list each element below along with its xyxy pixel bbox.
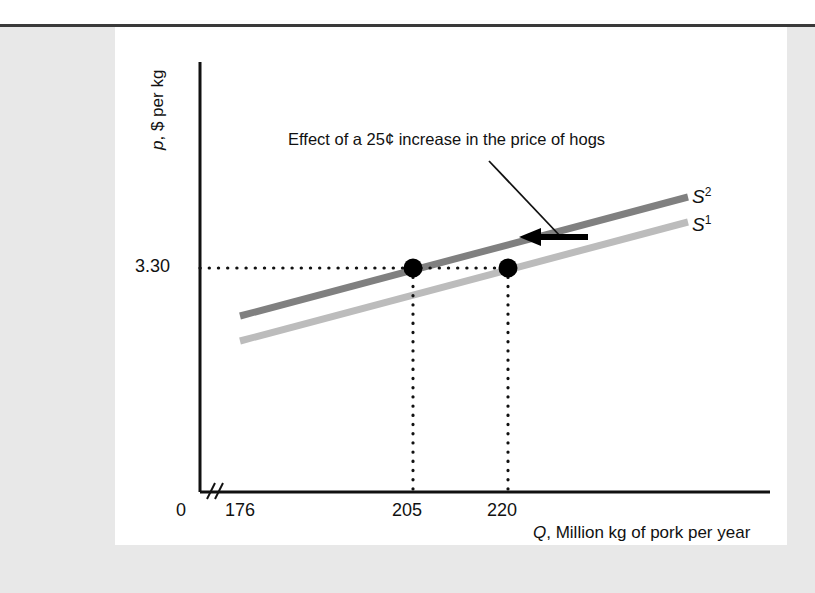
x-axis-label-variable: Q bbox=[533, 523, 546, 542]
x-axis-tick-205: 205 bbox=[392, 500, 422, 521]
x-axis-tick-220: 220 bbox=[487, 500, 517, 521]
curve-label-s1: S1 bbox=[692, 213, 711, 236]
y-axis-tick-330: 3.30 bbox=[135, 256, 170, 277]
shift-annotation-text: Effect of a 25¢ increase in the price of… bbox=[288, 130, 605, 149]
curve-label-s2-variable: S bbox=[692, 186, 705, 207]
curve-label-s2-superscript: 2 bbox=[705, 185, 712, 199]
x-axis-label-unit: , Million kg of pork per year bbox=[546, 523, 750, 542]
top-white-band bbox=[0, 0, 815, 24]
x-axis-tick-176: 176 bbox=[225, 500, 255, 521]
curve-label-s1-variable: S bbox=[692, 214, 705, 235]
y-axis-label-variable: p bbox=[148, 141, 167, 150]
curve-label-s2: S2 bbox=[692, 185, 711, 208]
y-axis-label: p, $ per kg bbox=[148, 70, 168, 150]
figure-card bbox=[115, 27, 787, 545]
y-axis-label-unit: , $ per kg bbox=[148, 70, 167, 141]
figure-page: p, $ per kg Q, Million kg of pork per ye… bbox=[0, 0, 815, 593]
x-axis-origin-label: 0 bbox=[176, 500, 186, 521]
curve-label-s1-superscript: 1 bbox=[705, 213, 712, 227]
x-axis-label: Q, Million kg of pork per year bbox=[533, 523, 750, 543]
